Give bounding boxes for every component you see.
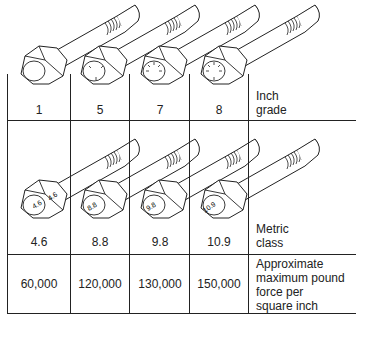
bolt-grade-8-icon: [201, 5, 319, 84]
strength-150000: 150,000: [189, 277, 249, 291]
bolt-class-10-9-icon: 10.9: [201, 139, 319, 218]
metric-class-9-8: 9.8: [130, 235, 190, 249]
metric-class-10-9: 10.9: [189, 235, 249, 249]
grid-line: [7, 313, 356, 314]
metric-class-4-6: 4.6: [9, 235, 69, 249]
grid-line: [7, 254, 356, 255]
strength-120000: 120,000: [70, 277, 130, 291]
metric-class-8-8: 8.8: [70, 235, 130, 249]
strength-130000: 130,000: [130, 277, 190, 291]
strength-row-label: Approximate maximum pound force per squa…: [256, 257, 366, 313]
inch-grade-7: 7: [130, 103, 190, 117]
inch-grade-1: 1: [9, 103, 69, 117]
metric-class-row-label: Metric class: [256, 222, 366, 250]
grid-line: [7, 120, 356, 121]
inch-grade-row-label: Inch grade: [256, 89, 366, 117]
inch-grade-8: 8: [189, 103, 249, 117]
inch-grade-5: 5: [70, 103, 130, 117]
strength-60000: 60,000: [9, 277, 69, 291]
